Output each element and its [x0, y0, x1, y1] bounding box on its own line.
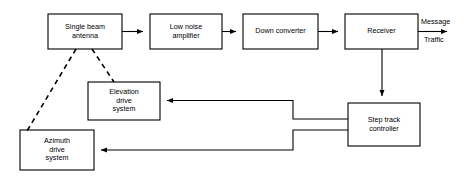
dashed-link-antenna-to-elevation-drive: [92, 49, 114, 82]
arrow-controller-to-elevation-drive: [167, 101, 348, 120]
block-diagram: Single beam antenna Low noise amplifier …: [0, 0, 468, 179]
label-traffic-output: Traffic: [424, 36, 444, 44]
diagram-canvas: [0, 0, 468, 179]
block-single-beam-antenna[interactable]: [48, 14, 122, 49]
block-azimuth-drive-system[interactable]: [20, 130, 94, 170]
block-step-track-controller[interactable]: [348, 103, 420, 146]
arrow-controller-to-azimuth-drive: [101, 130, 348, 150]
label-message-output: Message: [421, 18, 450, 26]
block-low-noise-amplifier[interactable]: [150, 14, 222, 49]
block-receiver[interactable]: [345, 14, 418, 49]
dashed-link-antenna-to-azimuth-drive: [27, 49, 76, 131]
block-elevation-drive-system[interactable]: [88, 82, 160, 120]
block-down-converter[interactable]: [243, 14, 318, 49]
